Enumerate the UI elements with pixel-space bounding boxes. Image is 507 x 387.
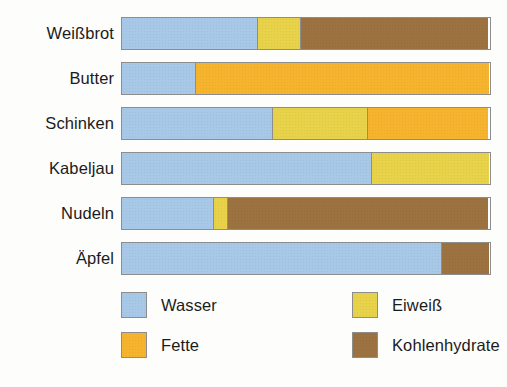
category-label-weissbrot: Weißbrot	[0, 17, 114, 50]
bar-row-aepfel: Äpfel	[0, 242, 507, 275]
bar-segment-fette	[195, 63, 489, 94]
bar-segment-kohlenhydrate	[227, 198, 488, 229]
bar-segment-wasser	[122, 243, 442, 274]
bar-track-nudeln	[121, 197, 491, 230]
bar-segment-wasser	[122, 108, 273, 139]
legend-item-wasser: Wasser	[121, 290, 217, 320]
bar-row-schinken: Schinken	[0, 107, 507, 140]
legend-label-eiweiss: Eiweiß	[392, 296, 442, 315]
legend-swatch-fette	[121, 332, 147, 358]
legend-swatch-wasser	[121, 292, 147, 318]
bar-segment-eiweiss	[371, 153, 489, 184]
bar-row-butter: Butter	[0, 62, 507, 95]
bar-row-weissbrot: Weißbrot	[0, 17, 507, 50]
bar-segment-eiweiss	[213, 198, 228, 229]
category-label-kabeljau: Kabeljau	[0, 152, 114, 185]
bar-segment-wasser	[122, 63, 196, 94]
bar-row-kabeljau: Kabeljau	[0, 152, 507, 185]
bar-segment-kohlenhydrate	[300, 18, 488, 49]
legend-swatch-kohlenhydrate	[352, 332, 378, 358]
bar-segment-fette	[367, 108, 488, 139]
bar-track-kabeljau	[121, 152, 491, 185]
bar-segment-eiweiss	[272, 108, 368, 139]
category-label-schinken: Schinken	[0, 107, 114, 140]
category-label-aepfel: Äpfel	[0, 242, 114, 275]
legend-swatch-eiweiss	[352, 292, 378, 318]
bar-track-weissbrot	[121, 17, 491, 50]
chart-legend: Wasser Eiweiß Fette Kohlenhydrate	[121, 290, 507, 364]
legend-label-kohlenhydrate: Kohlenhydrate	[392, 336, 500, 355]
legend-item-kohlenhydrate: Kohlenhydrate	[352, 330, 500, 360]
bar-segment-kohlenhydrate	[441, 243, 489, 274]
bar-track-aepfel	[121, 242, 491, 275]
bar-segment-eiweiss	[257, 18, 301, 49]
bar-segment-wasser	[122, 18, 258, 49]
bar-track-schinken	[121, 107, 491, 140]
legend-label-wasser: Wasser	[161, 296, 217, 315]
legend-item-eiweiss: Eiweiß	[352, 290, 442, 320]
bar-segment-wasser	[122, 153, 372, 184]
stacked-bar-chart: Weißbrot Butter Schinken Kabeljau Nudeln…	[0, 0, 507, 387]
bar-row-nudeln: Nudeln	[0, 197, 507, 230]
category-label-butter: Butter	[0, 62, 114, 95]
category-label-nudeln: Nudeln	[0, 197, 114, 230]
bar-segment-wasser	[122, 198, 214, 229]
bar-track-butter	[121, 62, 491, 95]
legend-item-fette: Fette	[121, 330, 199, 360]
legend-label-fette: Fette	[161, 336, 199, 355]
